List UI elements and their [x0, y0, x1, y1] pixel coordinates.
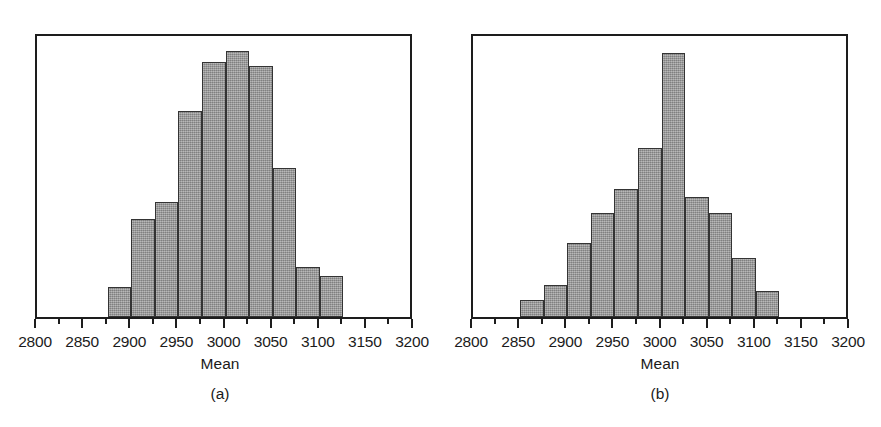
x-tick-major — [270, 319, 272, 328]
x-tick-major — [364, 319, 366, 328]
panel-a: 280028502900295030003050310031503200 Mea… — [0, 0, 440, 427]
x-tick-label: 3150 — [348, 333, 382, 351]
histogram-bar — [202, 62, 226, 317]
x-tick-label: 2850 — [501, 333, 535, 351]
histogram-bar — [226, 51, 250, 317]
x-tick-minor — [776, 319, 778, 324]
x-tick-minor — [729, 319, 731, 324]
histogram-bar — [756, 291, 780, 317]
panel-b: 280028502900295030003050310031503200 Mea… — [440, 0, 880, 427]
x-tick-minor — [105, 319, 107, 324]
histogram-bar — [108, 287, 132, 317]
x-tick-major — [659, 319, 661, 328]
x-tick-label: 2800 — [18, 333, 52, 351]
histogram-bar — [567, 243, 591, 317]
panel-caption-b: (b) — [440, 385, 880, 403]
x-tick-major — [847, 319, 849, 328]
histogram-bar — [273, 168, 297, 317]
histogram-bar — [249, 66, 273, 317]
histogram-bar — [178, 111, 202, 317]
x-tick-major — [34, 319, 36, 328]
histogram-bar — [638, 148, 662, 317]
bars-layer-a — [37, 36, 410, 317]
x-tick-label: 2900 — [112, 333, 146, 351]
x-tick-label: 3100 — [301, 333, 335, 351]
x-tick-minor — [494, 319, 496, 324]
x-tick-label: 2850 — [65, 333, 99, 351]
x-tick-label: 2900 — [548, 333, 582, 351]
x-tick-label: 3000 — [643, 333, 677, 351]
histogram-bar — [544, 285, 568, 317]
x-tick-minor — [58, 319, 60, 324]
histogram-bar — [320, 276, 344, 317]
histogram-bar — [591, 213, 615, 318]
x-tick-label: 3150 — [784, 333, 818, 351]
x-tick-minor — [293, 319, 295, 324]
x-tick-major — [753, 319, 755, 328]
x-tick-major — [223, 319, 225, 328]
x-tick-major — [81, 319, 83, 328]
x-tick-minor — [199, 319, 201, 324]
histogram-bar — [131, 219, 155, 317]
x-tick-label: 3050 — [690, 333, 724, 351]
x-tick-major — [470, 319, 472, 328]
x-tick-label: 2950 — [596, 333, 630, 351]
x-tick-minor — [246, 319, 248, 324]
x-tick-minor — [682, 319, 684, 324]
x-tick-major — [611, 319, 613, 328]
x-tick-minor — [387, 319, 389, 324]
histogram-bar — [732, 258, 756, 317]
x-tick-label: 3000 — [207, 333, 241, 351]
histogram-bar — [614, 189, 638, 317]
x-tick-major — [317, 319, 319, 328]
x-tick-minor — [541, 319, 543, 324]
histogram-bar — [520, 300, 544, 317]
x-tick-major — [564, 319, 566, 328]
x-tick-major — [411, 319, 413, 328]
x-tick-major — [175, 319, 177, 328]
x-axis-title-a: Mean — [0, 355, 440, 373]
x-tick-major — [706, 319, 708, 328]
histogram-figure: 280028502900295030003050310031503200 Mea… — [0, 0, 881, 427]
x-tick-label: 3100 — [737, 333, 771, 351]
histogram-bar — [685, 197, 709, 317]
histogram-bar — [296, 267, 320, 317]
plot-frame-b — [471, 34, 848, 319]
x-tick-label: 3200 — [831, 333, 865, 351]
x-tick-label: 3200 — [395, 333, 429, 351]
histogram-bar — [662, 53, 686, 317]
x-tick-minor — [588, 319, 590, 324]
x-tick-major — [517, 319, 519, 328]
x-tick-major — [128, 319, 130, 328]
histogram-bar — [155, 202, 179, 317]
bars-layer-b — [473, 36, 846, 317]
x-axis-title-b: Mean — [440, 355, 880, 373]
panel-caption-a: (a) — [0, 385, 440, 403]
x-tick-label: 2950 — [160, 333, 194, 351]
x-tick-label: 2800 — [454, 333, 488, 351]
x-tick-minor — [340, 319, 342, 324]
plot-frame-a — [35, 34, 412, 319]
x-tick-major — [800, 319, 802, 328]
x-tick-label: 3050 — [254, 333, 288, 351]
x-tick-minor — [823, 319, 825, 324]
histogram-bar — [709, 213, 733, 318]
x-tick-minor — [635, 319, 637, 324]
x-tick-minor — [152, 319, 154, 324]
